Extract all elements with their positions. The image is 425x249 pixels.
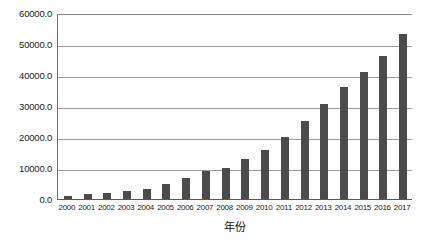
bar (162, 184, 170, 199)
x-axis-tick-label: 2001 (77, 203, 97, 213)
x-axis-tick-label: 2015 (353, 203, 373, 213)
bar (182, 178, 190, 199)
bar (261, 150, 269, 199)
y-axis-tick-label: 60000.0 (19, 9, 52, 19)
bar (123, 191, 131, 199)
x-axis-tick-label: 2006 (175, 203, 195, 213)
y-axis-tick-label: 20000.0 (19, 133, 52, 143)
x-axis-tick-label: 2010 (254, 203, 274, 213)
x-axis-tick-label: 2017 (392, 203, 412, 213)
x-axis-tick-label: 2002 (96, 203, 116, 213)
y-axis-tick-label: 10000.0 (19, 164, 52, 174)
y-axis-tick-label: 40000.0 (19, 71, 52, 81)
bar (360, 72, 368, 199)
bar (241, 159, 249, 199)
x-axis-tick-label: 2004 (136, 203, 156, 213)
bar (320, 104, 328, 199)
x-axis-tick-label: 2005 (156, 203, 176, 213)
x-axis-tick-label: 2011 (274, 203, 294, 213)
bar (143, 189, 151, 199)
bar-chart: 0.010000.020000.030000.040000.050000.060… (0, 0, 425, 249)
bar (202, 171, 210, 199)
x-axis-tick-label: 2000 (57, 203, 77, 213)
bar (399, 34, 407, 199)
bar (340, 87, 348, 199)
x-axis-line (58, 199, 412, 200)
x-axis-tick-label: 2014 (333, 203, 353, 213)
bar (301, 121, 309, 199)
x-axis-tick-label: 2007 (195, 203, 215, 213)
bar (379, 56, 387, 199)
bar (222, 168, 230, 199)
y-axis: 0.010000.020000.030000.040000.050000.060… (0, 0, 55, 249)
x-axis-tick-label: 2016 (373, 203, 393, 213)
y-axis-tick-label: 30000.0 (19, 102, 52, 112)
y-axis-tick-label: 0.0 (39, 195, 52, 205)
x-axis-tick-label: 2008 (215, 203, 235, 213)
plot-area (57, 14, 412, 200)
bar-series (58, 15, 412, 200)
x-axis-title: 年份 (57, 221, 412, 235)
x-axis-tick-label: 2003 (116, 203, 136, 213)
y-axis-tick-label: 50000.0 (19, 40, 52, 50)
x-axis-tick-label: 2009 (235, 203, 255, 213)
x-axis: 2000200120022003200420052006200720082009… (57, 203, 412, 217)
bar (281, 137, 289, 199)
x-axis-tick-label: 2013 (313, 203, 333, 213)
x-axis-tick-label: 2012 (294, 203, 314, 213)
